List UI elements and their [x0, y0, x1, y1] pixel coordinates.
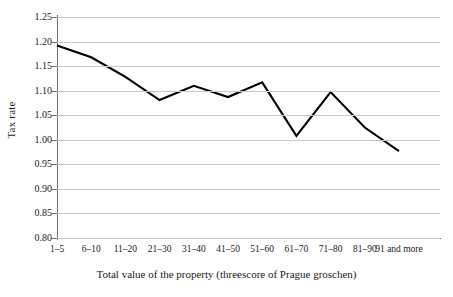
- x-tick-label: 81–90: [353, 243, 377, 255]
- gridline: [57, 17, 440, 18]
- gridline: [57, 42, 440, 43]
- line-series: [57, 17, 440, 238]
- y-tick-label: 1.15: [22, 61, 52, 71]
- y-tick-mark: [51, 164, 57, 165]
- y-tick-mark: [51, 115, 57, 116]
- tax-rate-line: [57, 45, 399, 151]
- gridline: [57, 66, 440, 67]
- x-axis-title-text: Total value of the property (threescore …: [96, 268, 356, 280]
- gridline: [57, 164, 440, 165]
- gridline: [57, 140, 440, 141]
- y-tick-mark: [51, 66, 57, 67]
- chart-figure: Tax rate 0.800.850.900.951.001.051.101.1…: [0, 0, 453, 297]
- y-tick-mark: [51, 42, 57, 43]
- x-tick-label: 21–30: [148, 243, 172, 255]
- y-tick-label: 1.00: [22, 135, 52, 145]
- x-tick-label: 91 and more: [375, 243, 423, 255]
- x-tick-label: 61–70: [285, 243, 309, 255]
- x-axis-title: Total value of the property (threescore …: [0, 268, 453, 280]
- x-axis-tick-labels: 1–56–1011–2021–3031–4041–5051–6061–7071–…: [0, 243, 453, 259]
- y-tick-label: 1.25: [22, 12, 52, 22]
- plot-area: [57, 17, 440, 238]
- y-tick-label: 1.05: [22, 110, 52, 120]
- y-tick-mark: [51, 238, 57, 239]
- gridline: [57, 213, 440, 214]
- y-tick-mark: [51, 213, 57, 214]
- y-tick-label: 0.95: [22, 159, 52, 169]
- y-tick-label: 0.80: [22, 233, 52, 243]
- y-tick-mark: [51, 140, 57, 141]
- x-tick-label: 71–80: [319, 243, 343, 255]
- x-tick-label: 31–40: [182, 243, 206, 255]
- y-tick-label: 0.85: [22, 208, 52, 218]
- x-tick-label: 1–5: [50, 243, 64, 255]
- y-tick-label: 0.90: [22, 184, 52, 194]
- gridline: [57, 189, 440, 190]
- x-tick-label: 6–10: [82, 243, 101, 255]
- gridline: [57, 91, 440, 92]
- x-tick-label: 11–20: [114, 243, 137, 255]
- y-tick-mark: [51, 17, 57, 18]
- x-tick-label: 51–60: [250, 243, 274, 255]
- y-tick-mark: [51, 91, 57, 92]
- x-tick-label: 41–50: [216, 243, 240, 255]
- gridline: [57, 115, 440, 116]
- gridline: [57, 238, 440, 239]
- y-tick-label: 1.10: [22, 86, 52, 96]
- y-tick-mark: [51, 189, 57, 190]
- y-tick-label: 1.20: [22, 37, 52, 47]
